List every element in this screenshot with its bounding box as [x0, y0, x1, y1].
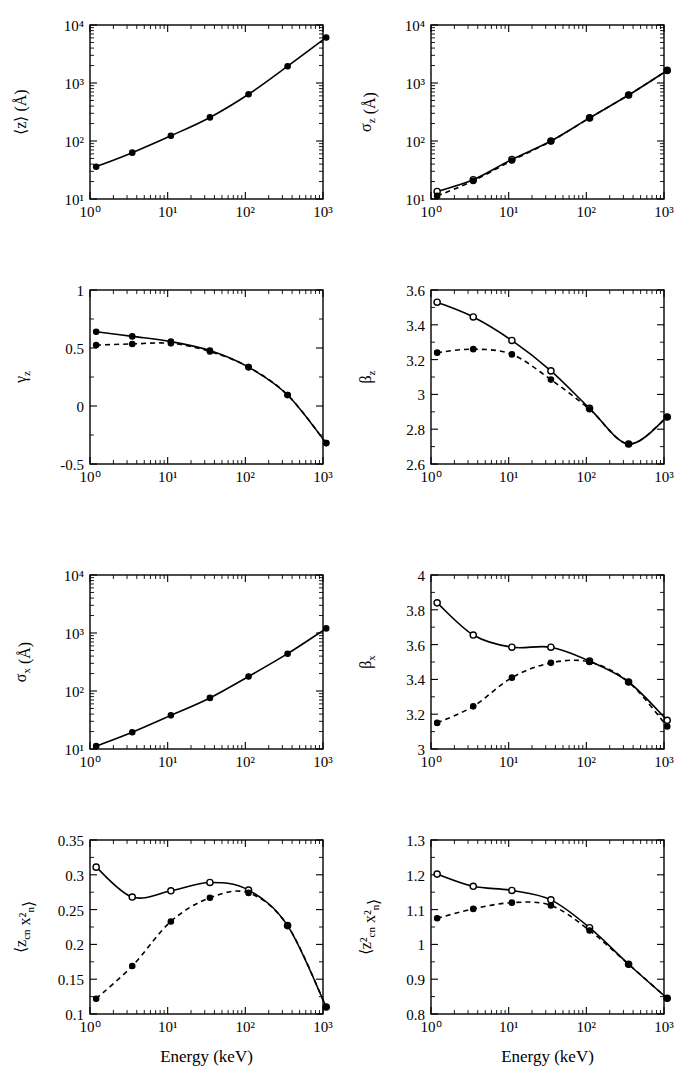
y-tick-label: 10²	[65, 684, 85, 700]
data-point-marker	[285, 392, 290, 397]
y-tick-label: 1	[418, 937, 426, 953]
series-solid-curve	[437, 70, 667, 191]
data-point-marker	[587, 406, 592, 411]
data-point-marker	[434, 916, 439, 921]
y-axis-label: βz	[357, 370, 377, 383]
y-tick-label: 10¹	[406, 192, 426, 208]
data-point-marker	[168, 133, 173, 138]
panel-sigma-x: 10⁰10¹10²10³10¹10²10³10⁴σx (Å)	[0, 535, 342, 805]
data-point-marker	[246, 890, 251, 895]
panel-gamma-z: 10⁰10¹10²10³-0.500.51γz	[0, 265, 342, 535]
y-tick-label: 0.35	[58, 833, 84, 849]
data-point-marker	[548, 368, 554, 374]
plot-frame	[90, 575, 323, 749]
y-tick-label: 0.9	[406, 972, 425, 988]
plot-frame	[431, 25, 664, 199]
data-point-marker	[665, 414, 670, 419]
y-axis-label: γz	[12, 371, 32, 384]
x-tick-label: 10²	[236, 469, 256, 485]
y-tick-label: 1	[77, 283, 85, 299]
data-point-marker	[129, 894, 135, 900]
data-point-marker	[168, 888, 174, 894]
y-tick-label: 3	[418, 742, 426, 758]
data-point-marker	[665, 996, 670, 1001]
data-point-marker	[207, 879, 213, 885]
x-tick-label: 10¹	[499, 204, 519, 220]
series-dashed-curve	[437, 349, 667, 444]
data-point-marker	[93, 996, 98, 1001]
data-point-marker	[434, 350, 439, 355]
panel-zcn2-xn2: 10⁰10¹10²10³0.80.911.11.21.3⟨z²cn x²n⟩En…	[341, 805, 683, 1081]
panel-zcn-xn2: 10⁰10¹10²10³0.10.150.20.250.30.35⟨zcn x²…	[0, 805, 342, 1081]
y-tick-label: 10²	[65, 134, 85, 150]
data-point-marker	[509, 337, 515, 343]
panel-sigma-z: 10⁰10¹10²10³10¹10²10³10⁴σz (Å)	[341, 0, 683, 270]
x-tick-label: 10²	[577, 204, 597, 220]
x-axis-title: Energy (keV)	[501, 1047, 594, 1066]
x-tick-label: 10²	[577, 1019, 597, 1035]
series-dashed-curve	[437, 902, 667, 998]
y-axis-label: σz (Å)	[357, 92, 379, 132]
plot-frame	[90, 290, 323, 464]
data-point-marker	[130, 334, 135, 339]
y-tick-label: 0.5	[65, 341, 84, 357]
data-point-marker	[207, 349, 212, 354]
data-point-marker	[207, 115, 212, 120]
data-point-marker	[324, 35, 329, 40]
series-solid-curve	[96, 37, 326, 166]
data-point-marker	[93, 864, 99, 870]
data-point-marker	[509, 158, 514, 163]
data-point-marker	[470, 883, 476, 889]
y-tick-label: 1.2	[406, 868, 425, 884]
y-tick-label: 10³	[406, 76, 426, 92]
x-tick-label: 10¹	[158, 1019, 178, 1035]
data-point-marker	[471, 178, 476, 183]
data-point-marker	[626, 441, 631, 446]
data-point-marker	[548, 377, 553, 382]
x-tick-label: 10²	[577, 469, 597, 485]
x-tick-label: 10³	[654, 204, 674, 220]
panel-beta-x: 10⁰10¹10²10³33.23.43.63.84βx	[341, 535, 683, 805]
data-point-marker	[548, 897, 554, 903]
panel-beta-z: 10⁰10¹10²10³2.62.833.23.43.6βz	[341, 265, 683, 535]
data-point-marker	[93, 342, 98, 347]
y-tick-label: 10⁴	[64, 18, 84, 34]
data-point-marker	[626, 962, 631, 967]
y-tick-label: 0.8	[406, 1007, 425, 1023]
x-tick-label: 10³	[313, 754, 333, 770]
data-point-marker	[587, 659, 592, 664]
series-solid-curve	[96, 628, 326, 746]
plot-frame	[431, 575, 664, 749]
data-point-marker	[587, 928, 592, 933]
y-axis-label: ⟨zcn x²n⟩	[12, 901, 37, 953]
data-point-marker	[587, 115, 592, 120]
y-axis-label: ⟨z²cn x²n⟩	[357, 899, 382, 956]
y-tick-label: 3	[418, 387, 426, 403]
data-point-marker	[93, 164, 98, 169]
y-tick-label: 0.3	[65, 868, 84, 884]
data-point-marker	[471, 346, 476, 351]
y-tick-label: 0.15	[58, 972, 84, 988]
y-axis-label: ⟨z⟩ (Å)	[12, 89, 30, 134]
y-tick-label: 10¹	[65, 742, 85, 758]
data-point-marker	[434, 720, 439, 725]
x-tick-label: 10²	[236, 1019, 256, 1035]
data-point-marker	[168, 341, 173, 346]
data-point-marker	[434, 193, 439, 198]
data-point-marker	[626, 679, 631, 684]
data-point-marker	[471, 906, 476, 911]
y-tick-label: 2.6	[406, 457, 425, 473]
x-tick-label: 10²	[577, 754, 597, 770]
plot-frame	[90, 25, 323, 199]
series-dashed-curve	[437, 660, 667, 726]
x-tick-label: 10²	[236, 204, 256, 220]
data-point-marker	[470, 314, 476, 320]
x-tick-label: 10³	[313, 204, 333, 220]
data-point-marker	[664, 717, 670, 723]
data-point-marker	[207, 695, 212, 700]
data-point-marker	[626, 92, 631, 97]
y-axis-label: σx (Å)	[12, 642, 34, 682]
y-axis-label: βx	[357, 655, 377, 669]
y-tick-label: 0.1	[65, 1007, 84, 1023]
y-tick-label: 1.3	[406, 833, 425, 849]
